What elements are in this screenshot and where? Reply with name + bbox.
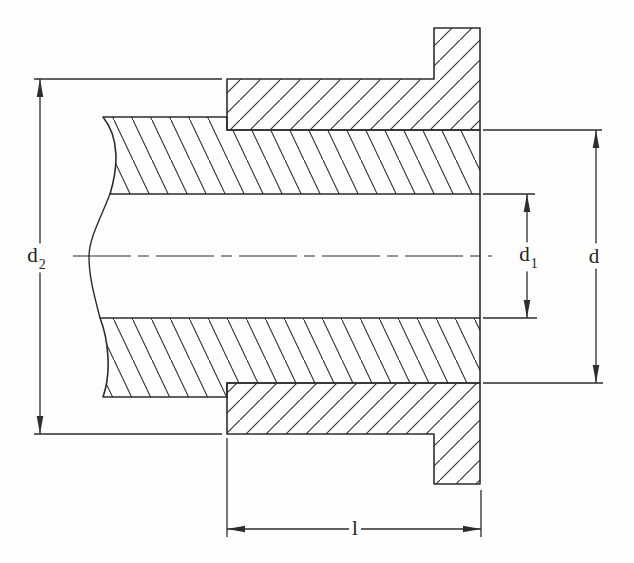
dimension-label-d: d: [586, 244, 603, 269]
d1-arrow-down: [524, 300, 531, 318]
d1-arrow-up: [524, 194, 531, 212]
bushing-lower-section: [227, 383, 480, 484]
l-arrow-right: [463, 526, 481, 533]
d1-base: d: [519, 242, 530, 266]
dimension-label-d1: d1: [516, 242, 540, 271]
tube-section: [100, 117, 480, 397]
cross-section-drawing: [0, 0, 634, 563]
d2-base: d: [27, 243, 38, 267]
d2-arrow-down: [37, 416, 44, 434]
d1-subscript: 1: [531, 257, 538, 272]
d2-arrow-up: [37, 79, 44, 97]
technical-drawing-figure: d2 d1 d l: [0, 0, 634, 563]
dimension-label-l: l: [349, 516, 361, 541]
l-base: l: [352, 516, 358, 540]
dimension-label-d2: d2: [24, 243, 48, 272]
d-arrow-up: [593, 130, 600, 148]
d-arrow-down: [593, 365, 600, 383]
d-base: d: [589, 244, 600, 268]
l-arrow-left: [227, 526, 245, 533]
bushing-upper-section: [227, 28, 480, 130]
d2-subscript: 2: [39, 258, 46, 273]
